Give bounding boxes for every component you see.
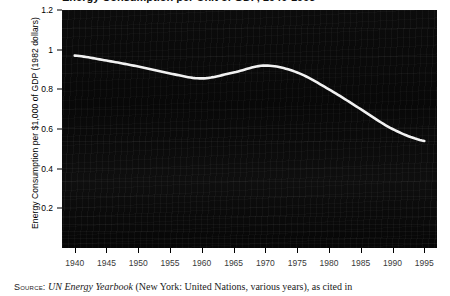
x-tick-mark: [361, 248, 362, 253]
plot-texture-streak: [62, 243, 437, 244]
source-rest: (New York: United Nations, various years…: [133, 281, 352, 292]
x-tick-mark: [424, 248, 425, 253]
x-tick-label: 1950: [129, 258, 148, 268]
x-tick-label: 1990: [383, 258, 402, 268]
x-tick-label: 1965: [224, 258, 243, 268]
x-tick-label: 1980: [319, 258, 338, 268]
x-tick-label: 1970: [256, 258, 275, 268]
x-tick-mark: [106, 248, 107, 253]
plot-texture-streak: [62, 56, 437, 57]
y-tick-label: 0.2: [41, 203, 53, 213]
source-note: Source: UN Energy Yearbook (New York: Un…: [14, 281, 444, 292]
x-tick-mark: [297, 248, 298, 253]
plot-texture-streak: [62, 141, 437, 142]
x-tick-label: 1940: [65, 258, 84, 268]
plot-area: [62, 10, 437, 248]
chart-title-text: Energy Consumption per Unit of GDP, 1940…: [62, 0, 315, 3]
plot-texture-streak: [62, 28, 437, 29]
x-tick-mark: [202, 248, 203, 253]
x-axis-ticks: 1940194519501955196019651970197519801985…: [62, 248, 437, 266]
x-tick-mark: [170, 248, 171, 253]
x-tick-label: 1985: [351, 258, 370, 268]
x-tick-mark: [138, 248, 139, 253]
source-publication-title: UN Energy Yearbook: [48, 281, 133, 292]
x-tick-mark: [329, 248, 330, 253]
x-tick-mark: [234, 248, 235, 253]
plot-texture-streak: [62, 196, 437, 197]
plot-texture-streak: [62, 73, 437, 74]
plot-texture-streak: [62, 109, 437, 110]
plot-texture-streak: [62, 207, 437, 208]
plot-texture-streak: [62, 128, 437, 129]
x-tick-mark: [265, 248, 266, 253]
source-label: Source:: [14, 282, 46, 292]
y-tick-label: 0.8: [41, 84, 53, 94]
data-line-chart: [62, 10, 437, 248]
x-tick-mark: [75, 248, 76, 253]
y-tick-label: 0.4: [41, 164, 53, 174]
x-tick-label: 1945: [97, 258, 116, 268]
plot-texture-streak: [62, 238, 437, 239]
y-tick-label: 1: [48, 45, 53, 55]
x-tick-label: 1960: [192, 258, 211, 268]
plot-texture-streak: [62, 224, 437, 225]
y-tick-label: 1.2: [41, 5, 53, 15]
x-tick-label: 1955: [161, 258, 180, 268]
chart-title-clipped: Energy Consumption per Unit of GDP, 1940…: [0, 0, 450, 7]
plot-texture-streak: [62, 168, 437, 169]
y-axis-ticks: 1.210.80.60.40.2: [0, 0, 62, 240]
plot-texture-streak: [62, 181, 437, 182]
y-tick-label: 0.6: [41, 124, 53, 134]
plot-texture-streak: [62, 231, 437, 232]
plot-texture-streak: [62, 216, 437, 217]
x-tick-mark: [393, 248, 394, 253]
x-tick-label: 1975: [288, 258, 307, 268]
x-tick-label: 1995: [415, 258, 434, 268]
